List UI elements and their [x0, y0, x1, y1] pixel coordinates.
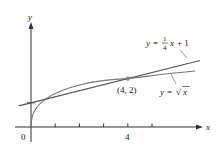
svg-text:y: y	[145, 38, 150, 48]
origin-label: 0	[21, 132, 26, 142]
svg-text:x: x	[182, 87, 187, 97]
x-axis-label: x	[205, 122, 210, 132]
svg-text:√: √	[176, 87, 181, 97]
x-axis-arrow-icon	[196, 125, 203, 130]
x-tick-label-4: 4	[125, 132, 130, 142]
tangent-line-diagram: y x 0 4 (4, 2) y = 1 4 x + 1 y = √ x	[0, 0, 220, 150]
x-ticks	[55, 124, 152, 128]
sqrt-curve	[31, 71, 195, 127]
svg-text:+ 1: + 1	[177, 38, 189, 48]
tangent-label-leader	[180, 50, 187, 58]
svg-text:=: =	[153, 38, 158, 48]
tangent-equation-label: y = 1 4 x + 1	[145, 35, 189, 52]
svg-text:4: 4	[163, 44, 167, 52]
svg-text:1: 1	[163, 35, 167, 43]
y-axis-arrow-icon	[29, 22, 34, 29]
y-axis-label: y	[27, 12, 32, 22]
tangent-point	[126, 76, 130, 80]
sqrt-label-leader	[171, 74, 176, 84]
point-label: (4, 2)	[117, 85, 137, 95]
sqrt-equation-label: y = √ x	[159, 87, 190, 98]
svg-text:=: =	[167, 87, 172, 97]
tangent-line	[19, 61, 200, 106]
svg-text:x: x	[169, 38, 174, 48]
svg-text:y: y	[159, 87, 164, 97]
